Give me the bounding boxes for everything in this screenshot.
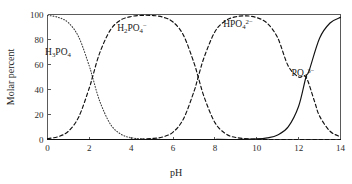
series-label-h3po4: H3PO4 <box>45 47 71 58</box>
series-label-h2po4: H2PO4− <box>117 22 147 34</box>
x-tick-label: 12 <box>294 143 303 153</box>
x-tick-label: 2 <box>87 143 92 153</box>
y-tick-label: 40 <box>35 85 45 95</box>
x-tick-label: 8 <box>213 143 218 153</box>
series-label-hpo42: HPO42− <box>223 18 253 30</box>
y-tick-label: 60 <box>35 60 45 70</box>
x-tick-label: 0 <box>45 143 50 153</box>
x-tick-label: 6 <box>171 143 176 153</box>
y-tick-label: 100 <box>30 10 44 20</box>
series-annotations: H3PO4H2PO4−HPO42−PO43− <box>45 18 314 79</box>
y-tick-label: 20 <box>35 110 45 120</box>
y-axis-title: Molar percent <box>5 49 16 106</box>
chart-figure: 020406080100 02468101214 Molar percent p… <box>0 0 352 184</box>
x-tick-label: 4 <box>129 143 134 153</box>
x-tick-label: 14 <box>336 143 346 153</box>
y-tick-label: 80 <box>35 35 45 45</box>
y-tick-label: 0 <box>39 135 44 145</box>
speciation-plot: 020406080100 02468101214 Molar percent p… <box>0 0 352 184</box>
x-axis-title: pH <box>170 167 182 178</box>
series-label-po43: PO43− <box>292 67 315 79</box>
curve-po43 <box>48 17 341 139</box>
x-tick-label: 10 <box>252 143 262 153</box>
